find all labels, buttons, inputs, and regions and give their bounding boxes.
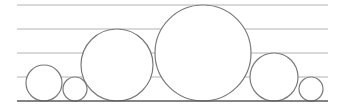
circle <box>299 77 323 101</box>
circle <box>81 29 153 101</box>
circle <box>26 65 62 101</box>
circle <box>155 5 251 101</box>
circle <box>63 77 87 101</box>
circle <box>250 53 298 101</box>
circles-on-baseline-diagram <box>0 0 342 107</box>
